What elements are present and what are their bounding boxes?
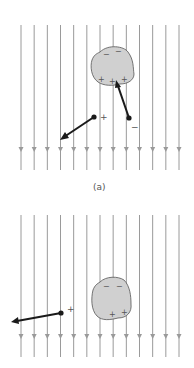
field-arrowhead-icon: [98, 334, 103, 339]
field-arrowhead-icon: [137, 147, 142, 152]
field-arrowhead-icon: [111, 334, 116, 339]
field-lines-a: [19, 25, 182, 170]
field-arrowhead-icon: [84, 147, 89, 152]
positive-sign: +: [109, 310, 116, 319]
field-arrowhead-icon: [124, 334, 129, 339]
field-arrowhead-icon: [58, 334, 63, 339]
positive-sign: +: [109, 77, 116, 86]
field-arrowhead-icon: [45, 147, 50, 152]
field-arrowhead-icon: [32, 147, 37, 152]
negative-charge-label: −: [131, 122, 139, 132]
positive-sign: +: [121, 75, 128, 84]
positive-charge: [91, 114, 96, 119]
diagram: − − + + + + − (a) − − + + +: [0, 0, 194, 368]
field-arrowhead-icon: [58, 147, 63, 152]
field-arrowhead-icon: [84, 334, 89, 339]
positive-sign: +: [121, 308, 128, 317]
negative-sign: −: [115, 47, 122, 56]
field-arrowhead-icon: [32, 334, 37, 339]
field-arrowhead-icon: [150, 334, 155, 339]
field-arrowhead-icon: [19, 334, 24, 339]
field-arrowhead-icon: [137, 334, 142, 339]
field-arrowhead-icon: [98, 147, 103, 152]
field-arrowhead-icon: [177, 334, 182, 339]
negative-sign: −: [116, 282, 123, 291]
force-arrow-positive-a: [60, 114, 97, 140]
field-arrowhead-icon: [111, 147, 116, 152]
panel-b: − − + + +: [11, 215, 182, 357]
negative-charge: [126, 115, 131, 120]
positive-sign: +: [98, 75, 105, 84]
panel-a: − − + + + + − (a): [19, 25, 182, 192]
field-arrowhead-icon: [163, 147, 168, 152]
negative-sign: −: [103, 282, 110, 291]
field-arrowhead-icon: [71, 334, 76, 339]
negative-sign: −: [103, 50, 110, 59]
field-arrowhead-icon: [150, 147, 155, 152]
field-arrowhead-icon: [177, 147, 182, 152]
field-arrowhead-icon: [71, 147, 76, 152]
positive-charge-label: +: [100, 112, 108, 122]
panel-label-a: (a): [93, 182, 106, 192]
field-arrowhead-icon: [163, 334, 168, 339]
field-arrowhead-icon: [19, 147, 24, 152]
force-arrow-negative-a: [115, 80, 132, 121]
field-arrowhead-icon: [124, 147, 129, 152]
force-arrow-positive-b: [11, 310, 64, 324]
field-arrowhead-icon: [45, 334, 50, 339]
positive-charge: [58, 310, 63, 315]
positive-charge-label: +: [67, 304, 75, 314]
